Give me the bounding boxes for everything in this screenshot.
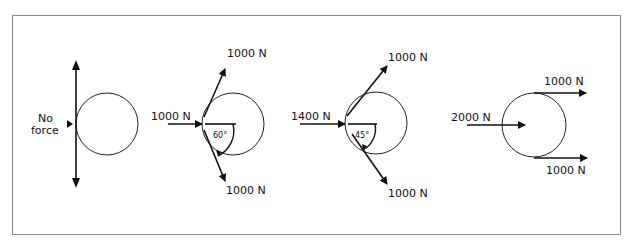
pulley-circle xyxy=(76,93,138,155)
pulley-circle xyxy=(345,92,407,154)
no-force-label-2: force xyxy=(31,124,59,137)
input-force-label: 2000 N xyxy=(451,111,491,124)
panel-parallel: 2000 N 1000 N 1000 N xyxy=(451,75,587,177)
panel-45-degrees: 45° 1400 N 1000 N 1000 N xyxy=(291,51,428,200)
bottom-force-label: 1000 N xyxy=(388,187,428,200)
input-force-label: 1000 N xyxy=(151,110,191,123)
angle-label: 60° xyxy=(213,131,227,140)
angle-label: 45° xyxy=(355,131,369,140)
angle-arc xyxy=(218,124,234,156)
top-force-label: 1000 N xyxy=(227,47,267,60)
panel-no-force: No force xyxy=(31,60,138,188)
arrow-up-icon xyxy=(72,60,80,70)
top-force-label: 1000 N xyxy=(388,51,428,64)
top-force-label: 1000 N xyxy=(544,75,584,88)
top-force-arrow xyxy=(347,66,387,116)
panel-60-degrees: 60° 1000 N 1000 N 1000 N xyxy=(151,47,267,197)
arrow-down-icon xyxy=(72,178,80,188)
top-force-arrow xyxy=(204,69,225,117)
force-diagram: No force 60° 1000 N 1000 N 1000 N 45° 14… xyxy=(0,0,634,244)
bottom-force-label: 1000 N xyxy=(546,164,586,177)
bottom-force-label: 1000 N xyxy=(226,184,266,197)
input-force-label: 1400 N xyxy=(291,110,331,123)
bottom-force-arrow xyxy=(352,134,387,184)
pointer-arrow-icon xyxy=(67,120,73,128)
